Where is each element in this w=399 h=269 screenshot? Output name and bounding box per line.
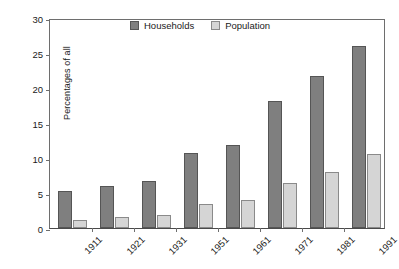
bar-households	[226, 145, 240, 228]
x-axis-tick-mark	[344, 228, 345, 232]
legend-label: Households	[144, 20, 194, 31]
bar-population	[367, 154, 381, 228]
bar-households	[142, 181, 156, 228]
bar-population	[199, 204, 213, 228]
bar-population	[241, 200, 255, 228]
x-axis-tick-mark	[218, 228, 219, 232]
bar-households	[58, 191, 72, 228]
bar-group	[302, 20, 344, 228]
y-axis-tick-mark	[46, 230, 50, 231]
y-axis-tick-label: 5	[38, 188, 43, 201]
bar-population	[325, 172, 339, 228]
x-axis-tick-mark	[92, 228, 93, 232]
bars-layer	[50, 20, 384, 228]
bar-households	[184, 153, 198, 228]
bar-group	[50, 20, 92, 228]
bar-households	[100, 186, 114, 228]
x-axis-tick-label: 1921	[124, 234, 147, 257]
bar-population	[73, 220, 87, 228]
x-axis-tick-mark	[260, 228, 261, 232]
x-axis-tick-label: 1961	[250, 234, 273, 257]
y-axis-tick-label: 10	[32, 153, 43, 166]
y-axis-tick-label: 20	[32, 83, 43, 96]
bar-group	[134, 20, 176, 228]
bar-households	[310, 76, 324, 228]
x-axis-tick-label: 1911	[82, 234, 104, 256]
legend-label: Population	[225, 20, 270, 31]
bar-group	[218, 20, 260, 228]
x-axis-tick-label: 1981	[334, 234, 357, 257]
x-axis-tick-label: 1971	[292, 234, 315, 257]
bar-group	[260, 20, 302, 228]
bar-group	[92, 20, 134, 228]
bar-group	[344, 20, 386, 228]
plot-area: Percentages of all 051015202530 19111921…	[49, 19, 385, 229]
bar-households	[268, 101, 282, 228]
legend-item-households[interactable]: Households	[130, 20, 194, 31]
bar-group	[176, 20, 218, 228]
bar-population	[157, 215, 171, 228]
legend-item-population[interactable]: Population	[211, 20, 270, 31]
legend-swatch-icon	[130, 21, 139, 30]
x-axis-tick-mark	[176, 228, 177, 232]
y-axis-tick-label: 15	[32, 118, 43, 131]
y-axis-tick-label: 0	[38, 223, 43, 236]
y-axis-tick-label: 25	[32, 48, 43, 61]
x-axis-tick-label: 1951	[208, 234, 231, 257]
y-axis-tick-label: 30	[32, 13, 43, 26]
bar-households	[352, 46, 366, 228]
bar-population	[283, 183, 297, 228]
bar-population	[115, 217, 129, 228]
x-axis-tick-mark	[302, 228, 303, 232]
x-axis-tick-label: 1931	[166, 234, 189, 257]
legend-swatch-icon	[211, 21, 220, 30]
x-axis-tick-mark	[134, 228, 135, 232]
x-axis-tick-label: 1991	[376, 234, 399, 257]
chart-legend: HouseholdsPopulation	[130, 20, 270, 31]
